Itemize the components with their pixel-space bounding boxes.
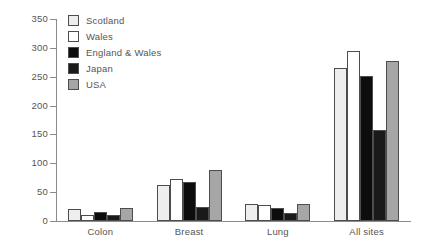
bar bbox=[94, 212, 107, 221]
bar-chart: 350300250200150100500 ColonBreastLungAll… bbox=[0, 0, 429, 252]
y-axis-tick-label: 50 bbox=[2, 187, 48, 197]
bar-group bbox=[157, 19, 222, 221]
bar-group bbox=[334, 19, 399, 221]
y-axis-tick-label: 150 bbox=[2, 129, 48, 139]
bar bbox=[68, 209, 81, 221]
bar bbox=[170, 179, 183, 221]
bar bbox=[183, 182, 196, 221]
bar bbox=[347, 51, 360, 221]
y-axis-tick-labels: 350300250200150100500 bbox=[0, 0, 48, 252]
legend-item: England & Wales bbox=[68, 45, 162, 60]
bar bbox=[284, 213, 297, 221]
y-axis-tick-label: 350 bbox=[2, 14, 48, 24]
legend-swatch bbox=[68, 79, 79, 90]
legend-label: USA bbox=[86, 79, 106, 90]
legend-item: Scotland bbox=[68, 13, 162, 28]
legend-label: Wales bbox=[86, 31, 113, 42]
bar bbox=[271, 208, 284, 221]
bar bbox=[209, 170, 222, 221]
x-axis-category-label: Colon bbox=[56, 227, 145, 237]
y-axis-tick-label: 100 bbox=[2, 158, 48, 168]
bar bbox=[258, 205, 271, 221]
legend-label: Scotland bbox=[86, 15, 125, 26]
legend-swatch bbox=[68, 63, 79, 74]
bar bbox=[360, 76, 373, 221]
chart-legend: ScotlandWalesEngland & WalesJapanUSA bbox=[68, 13, 162, 93]
bar bbox=[334, 68, 347, 221]
bar bbox=[245, 204, 258, 221]
y-axis-tick-label: 200 bbox=[2, 101, 48, 111]
bar bbox=[373, 130, 386, 221]
x-axis-category-label: Breast bbox=[145, 227, 234, 237]
bar bbox=[157, 185, 170, 221]
legend-item: USA bbox=[68, 77, 162, 92]
bar bbox=[386, 61, 399, 221]
x-axis-line bbox=[56, 221, 411, 222]
bar bbox=[81, 215, 94, 221]
legend-swatch bbox=[68, 15, 79, 26]
y-axis-tick-label: 250 bbox=[2, 72, 48, 82]
bar bbox=[107, 215, 120, 221]
x-axis-category-label: All sites bbox=[322, 227, 411, 237]
bar-group bbox=[245, 19, 310, 221]
legend-item: Wales bbox=[68, 29, 162, 44]
legend-label: Japan bbox=[86, 63, 113, 74]
legend-item: Japan bbox=[68, 61, 162, 76]
bar bbox=[196, 207, 209, 221]
bar bbox=[297, 204, 310, 221]
x-axis-category-label: Lung bbox=[234, 227, 323, 237]
legend-label: England & Wales bbox=[86, 47, 162, 58]
bar bbox=[120, 208, 133, 221]
legend-swatch bbox=[68, 31, 79, 42]
y-axis-tick-label: 0 bbox=[2, 216, 48, 226]
legend-swatch bbox=[68, 47, 79, 58]
y-axis-tick-label: 300 bbox=[2, 43, 48, 53]
